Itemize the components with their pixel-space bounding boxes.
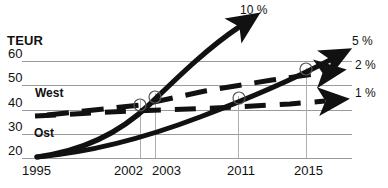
rate-label-1: 1 %	[355, 86, 376, 100]
y-tick-60: 60	[8, 46, 22, 61]
y-tick-40: 40	[8, 95, 22, 110]
series-west-lower	[35, 101, 325, 116]
x-tick-2003: 2003	[152, 163, 181, 178]
y-tick-30: 30	[8, 119, 22, 134]
rate-label-10: 10 %	[240, 3, 267, 17]
rate-label-2: 2 %	[355, 58, 376, 72]
y-tick-20: 20	[8, 143, 22, 158]
series-label-ost: Ost	[34, 126, 54, 140]
x-tick-2011: 2011	[227, 163, 255, 178]
x-tick-1995: 1995	[22, 163, 51, 178]
x-tick-2015: 2015	[294, 163, 323, 178]
growth-projection-chart: TEUR 60 50 40 30 20 1995 2002 2003 2011 …	[0, 0, 388, 188]
rate-label-5: 5 %	[352, 34, 373, 48]
x-tick-2002: 2002	[114, 163, 143, 178]
series-label-west: West	[35, 86, 63, 100]
y-tick-50: 50	[8, 70, 22, 85]
